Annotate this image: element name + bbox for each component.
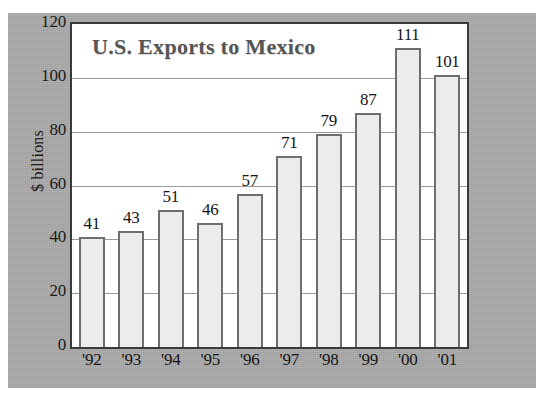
chart-figure: $ billions 020406080100120 4143514657717… [0, 0, 554, 402]
bar-slot [270, 24, 310, 347]
bar[interactable] [158, 210, 184, 347]
bar[interactable] [237, 194, 263, 347]
x-tick-label: '94 [161, 350, 180, 370]
bar-slot [151, 24, 191, 347]
bar-value-label: 46 [202, 200, 218, 220]
bar[interactable] [395, 48, 421, 347]
y-tick-label: 80 [49, 120, 66, 140]
y-tick-label: 40 [49, 227, 66, 247]
bar[interactable] [276, 156, 302, 347]
y-axis-tick-labels: 020406080100120 [26, 22, 70, 345]
bar[interactable] [434, 75, 460, 347]
bar-value-label: 87 [360, 90, 376, 110]
bar-slot [388, 24, 428, 347]
x-tick-label: '93 [122, 350, 141, 370]
x-tick-label: '96 [240, 350, 259, 370]
y-tick-label: 120 [41, 12, 66, 32]
plot-area: 4143514657717987111101 U.S. Exports to M… [70, 22, 469, 349]
bar-slot [191, 24, 231, 347]
x-tick-label: '97 [280, 350, 299, 370]
bar-value-label: 101 [435, 52, 460, 72]
x-tick-label: '92 [82, 350, 101, 370]
bar-slot [349, 24, 389, 347]
bar-value-label: 111 [396, 25, 419, 45]
bar-value-label: 51 [163, 187, 179, 207]
x-axis-tick-labels: '92'93'94'95'96'97'98'99'00'01 [70, 350, 469, 376]
bar[interactable] [316, 134, 342, 347]
bar-slot [309, 24, 349, 347]
y-tick-label: 0 [58, 335, 66, 355]
bar[interactable] [79, 237, 105, 347]
x-tick-label: '98 [319, 350, 338, 370]
x-tick-label: '95 [201, 350, 220, 370]
bar-value-label: 71 [281, 133, 297, 153]
bar-value-label: 79 [321, 111, 337, 131]
bar[interactable] [118, 231, 144, 347]
bar-slot [112, 24, 152, 347]
bars-group: 4143514657717987111101 [72, 24, 467, 347]
x-tick-label: '01 [438, 350, 457, 370]
y-tick-label: 60 [49, 174, 66, 194]
y-tick-label: 100 [41, 66, 66, 86]
bar-value-label: 41 [84, 214, 100, 234]
bar-slot [428, 24, 468, 347]
bar[interactable] [197, 223, 223, 347]
bar[interactable] [355, 113, 381, 347]
x-tick-label: '00 [398, 350, 417, 370]
y-tick-label: 20 [49, 281, 66, 301]
chart-title: U.S. Exports to Mexico [92, 34, 316, 60]
bar-slot [72, 24, 112, 347]
bar-value-label: 57 [242, 171, 258, 191]
x-tick-label: '99 [359, 350, 378, 370]
bar-value-label: 43 [123, 208, 139, 228]
